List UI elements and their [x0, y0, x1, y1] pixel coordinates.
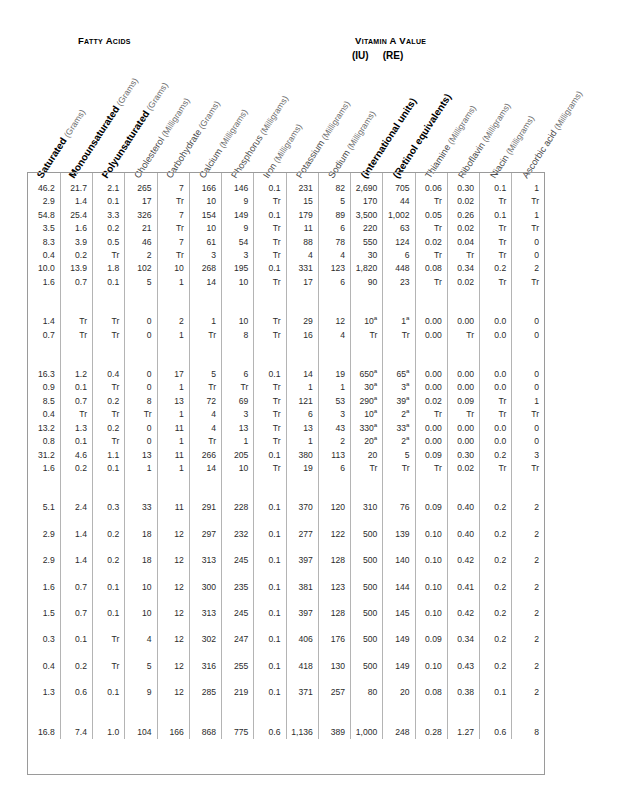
table-cell-empty	[189, 700, 221, 713]
table-cell-empty	[351, 515, 383, 528]
table-cell: 13	[222, 422, 254, 435]
table-cell-empty	[415, 342, 447, 355]
table-cell: 235	[222, 581, 254, 594]
table-spacer-row	[28, 302, 544, 315]
table-cell: 0.00	[447, 368, 479, 381]
table-cell-empty	[189, 541, 221, 554]
table-cell: 0.2	[480, 501, 512, 514]
table-cell: 128	[318, 554, 350, 567]
table-cell: 0	[125, 435, 157, 448]
table-cell: Tr	[125, 408, 157, 421]
table-cell: 0.1	[254, 607, 286, 620]
table-cell-empty	[157, 594, 189, 607]
table-cell: 0.6	[60, 686, 92, 699]
table-spacer-row	[28, 620, 544, 633]
table-cell-empty	[222, 700, 254, 713]
table-cell-empty	[447, 594, 479, 607]
table-cell: 0.02	[447, 462, 479, 475]
table-cell-empty	[447, 488, 479, 501]
column-header-unit: (Milligrams)	[478, 101, 512, 146]
table-cell: Tr	[189, 329, 221, 342]
table-cell: 1	[222, 435, 254, 448]
table-row: 0.7TrTr01Tr8Tr164TrTr0.00Tr0.00	[28, 329, 544, 342]
table-cell: 371	[286, 686, 318, 699]
table-cell-empty	[512, 515, 544, 528]
table-cell: 14	[286, 368, 318, 381]
table-cell-empty	[351, 647, 383, 660]
table-cell-empty	[189, 647, 221, 660]
table-cell: 12	[157, 660, 189, 673]
table-cell-empty	[254, 302, 286, 315]
table-cell: 10a	[351, 315, 383, 328]
table-cell: 0.0	[480, 329, 512, 342]
table-cell-empty	[447, 302, 479, 315]
table-cell: 39a	[383, 395, 415, 408]
table-cell: 0.09	[415, 633, 447, 646]
table-cell: 6	[286, 408, 318, 421]
table-cell: Tr	[189, 381, 221, 394]
table-cell-empty	[447, 568, 479, 581]
table-cell: 0.7	[60, 581, 92, 594]
table-cell: 0	[512, 329, 544, 342]
table-cell-empty	[157, 568, 189, 581]
table-cell: 176	[318, 633, 350, 646]
column-header-unit: (Milligrams)	[271, 122, 305, 167]
table-cell: 195	[222, 262, 254, 275]
table-cell: 149	[383, 660, 415, 673]
table-cell: 2	[512, 607, 544, 620]
table-cell-empty	[60, 700, 92, 713]
table-cell: 10a	[351, 408, 383, 421]
table-cell-empty	[383, 620, 415, 633]
table-cell-empty	[351, 173, 383, 182]
table-cell: 4	[125, 633, 157, 646]
table-cell: 448	[383, 262, 415, 275]
table-cell-empty	[318, 620, 350, 633]
table-cell-empty	[125, 289, 157, 302]
table-cell: 20	[383, 686, 415, 699]
table-cell: 113	[318, 449, 350, 462]
table-cell: 0.9	[28, 381, 60, 394]
table-cell: 23	[383, 276, 415, 289]
table-cell: 1.4	[28, 315, 60, 328]
table-cell: Tr	[93, 660, 125, 673]
table-cell: 0.02	[447, 222, 479, 235]
table-cell: 53	[318, 395, 350, 408]
table-row: 54.825.43.332671541490.1179893,5001,0020…	[28, 209, 544, 222]
table-cell: 0.28	[415, 726, 447, 739]
table-cell-empty	[157, 475, 189, 488]
table-cell-empty	[254, 647, 286, 660]
table-cell: 11	[157, 501, 189, 514]
table-cell: 0.1	[254, 528, 286, 541]
table-cell: 54.8	[28, 209, 60, 222]
table-cell: 10	[222, 315, 254, 328]
table-cell: 2.9	[28, 554, 60, 567]
table-cell-empty	[447, 713, 479, 726]
table-cell: 0.1	[93, 686, 125, 699]
column-header-unit: (Milligrams)	[503, 113, 537, 158]
table-cell: Tr	[512, 222, 544, 235]
table-cell-empty	[351, 302, 383, 315]
table-cell: 6	[222, 368, 254, 381]
table-cell: 0.00	[415, 329, 447, 342]
table-cell-empty	[383, 475, 415, 488]
table-cell: 0.10	[415, 607, 447, 620]
table-row: 46.221.72.126571661460.1231822,6907050.0…	[28, 182, 544, 195]
table-cell: Tr	[254, 195, 286, 208]
column-header-retinol-equivalents: (Retinol equivalents)	[391, 92, 453, 180]
table-cell: 2	[512, 262, 544, 275]
table-cell: 0.30	[447, 449, 479, 462]
table-cell-empty	[512, 173, 544, 182]
table-cell: 0.2	[480, 607, 512, 620]
table-spacer-row	[28, 173, 544, 182]
table-cell: 6	[383, 249, 415, 262]
table-cell-empty	[60, 342, 92, 355]
table-cell-empty	[254, 173, 286, 182]
table-cell: Tr	[93, 381, 125, 394]
table-cell-empty	[254, 620, 286, 633]
table-cell: 170	[351, 195, 383, 208]
table-cell: 247	[222, 633, 254, 646]
table-cell-empty	[93, 355, 125, 368]
table-cell: 248	[383, 726, 415, 739]
table-cell: Tr	[254, 395, 286, 408]
table-cell-empty	[125, 475, 157, 488]
